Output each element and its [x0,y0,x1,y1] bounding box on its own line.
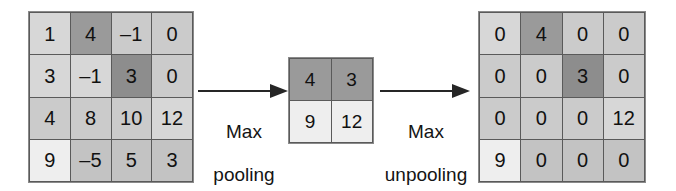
matrix-cell: 0 [563,98,603,139]
diagram-canvas: 14–103–1304810129–553 Max pooling 43912 … [0,0,676,191]
matrix-cell: 0 [152,13,192,54]
matrix-cell: 4 [521,13,561,54]
matrix-cell: 3 [112,55,152,96]
input-matrix: 14–103–1304810129–553 [28,11,194,183]
matrix-cell: 0 [604,140,644,181]
matrix-cell: 3 [152,140,192,181]
matrix-cell: 5 [112,140,152,181]
matrix-cell: 12 [332,101,373,142]
matrix-cell: 0 [521,140,561,181]
matrix-cell: 0 [563,13,603,54]
matrix-cell: 0 [480,55,520,96]
unpooled-matrix: 04000030000129000 [478,11,646,183]
matrix-cell: 0 [563,140,603,181]
matrix-cell: 12 [604,98,644,139]
matrix-cell: –1 [112,13,152,54]
matrix-cell: 9 [30,140,70,181]
matrix-cell: 4 [71,13,111,54]
matrix-cell: 1 [30,13,70,54]
max-unpooling-label-line-2: unpooling [378,164,474,185]
matrix-cell: 4 [290,59,331,100]
matrix-cell: 12 [152,98,192,139]
matrix-cell: 0 [521,98,561,139]
max-pooling-label-line-2: pooling [196,164,292,185]
max-unpooling-arrow-group: Max unpooling [378,84,474,191]
matrix-cell: 0 [480,98,520,139]
arrow-head [270,84,288,98]
matrix-cell: 4 [30,98,70,139]
pooled-matrix: 43912 [288,57,374,144]
matrix-cell: 9 [480,140,520,181]
matrix-cell: 10 [112,98,152,139]
max-unpooling-label-line-1: Max [378,121,474,142]
matrix-cell: 0 [480,13,520,54]
matrix-cell: 0 [521,55,561,96]
arrow-shaft [380,90,458,92]
max-pooling-label-line-1: Max [196,121,292,142]
max-pooling-label: Max pooling [196,100,292,191]
arrow-right-icon [380,84,472,98]
arrow-head [452,84,470,98]
max-pooling-arrow-group: Max pooling [196,84,292,191]
matrix-cell: 3 [332,59,373,100]
arrow-right-icon [198,84,290,98]
matrix-cell: 9 [290,101,331,142]
matrix-cell: 3 [563,55,603,96]
matrix-cell: 3 [30,55,70,96]
matrix-cell: 0 [604,55,644,96]
matrix-cell: 0 [604,13,644,54]
max-unpooling-label: Max unpooling [378,100,474,191]
arrow-shaft [198,90,276,92]
matrix-cell: –1 [71,55,111,96]
matrix-cell: 8 [71,98,111,139]
matrix-cell: 0 [152,55,192,96]
matrix-cell: –5 [71,140,111,181]
